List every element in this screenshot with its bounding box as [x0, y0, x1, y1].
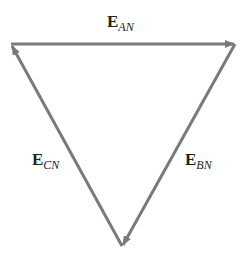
vector-ecn [12, 46, 122, 246]
label-ean: EAN [107, 12, 134, 32]
label-ebn: EBN [185, 150, 212, 170]
label-ecn-sub: CN [43, 158, 59, 172]
label-ecn-main: E [32, 150, 43, 169]
label-ean-main: E [107, 12, 118, 31]
phasor-triangle [0, 0, 249, 268]
label-ean-sub: AN [118, 20, 133, 34]
label-ebn-main: E [185, 150, 196, 169]
label-ebn-sub: BN [196, 158, 211, 172]
vector-ebn [123, 44, 235, 245]
label-ecn: ECN [32, 150, 59, 170]
